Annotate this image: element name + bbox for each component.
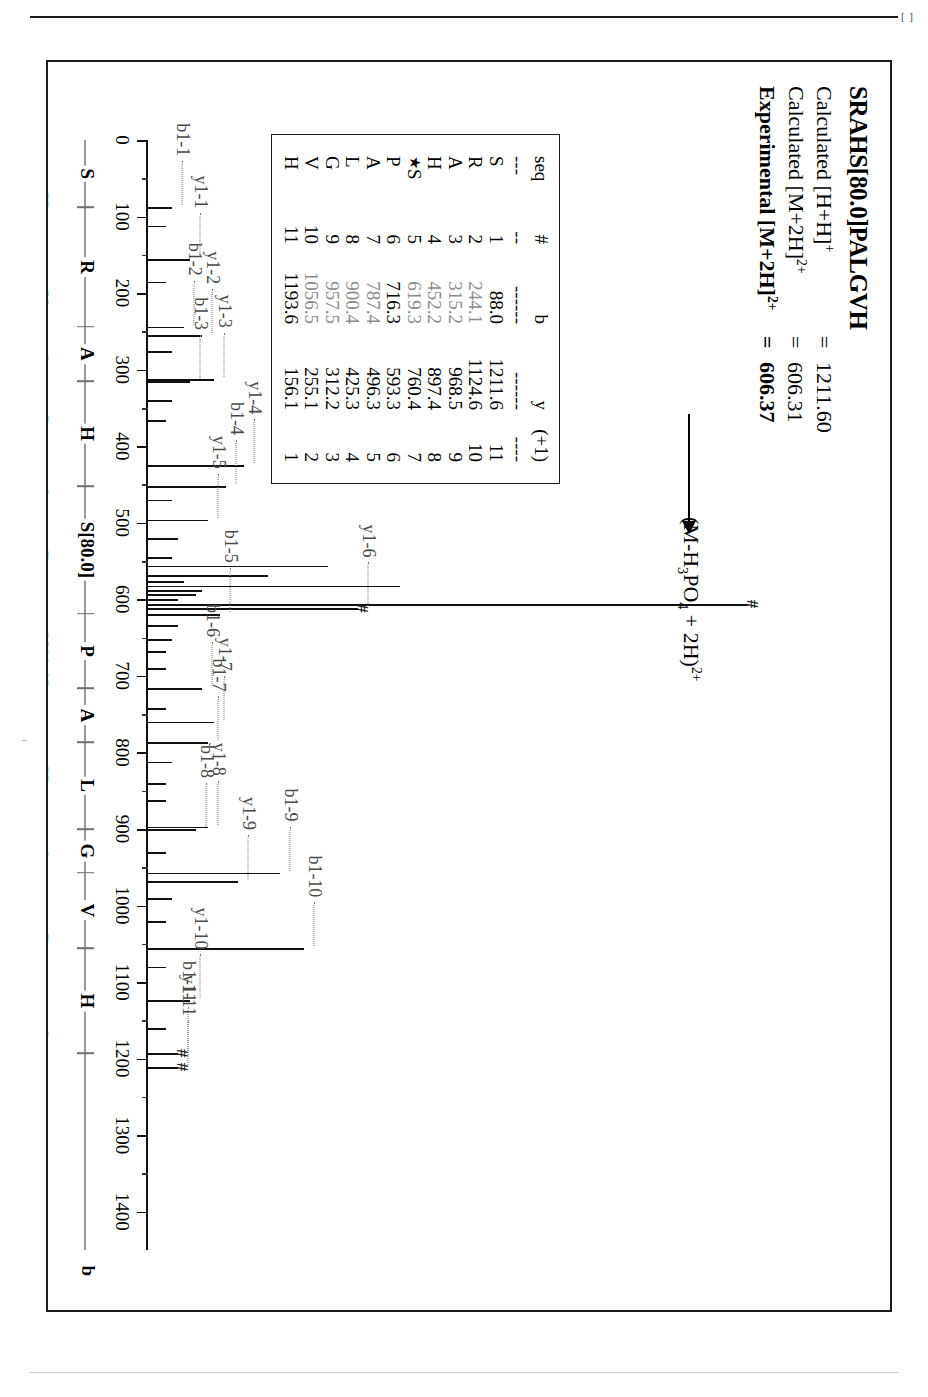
peak-label-leader xyxy=(236,440,237,484)
axis-tick xyxy=(137,140,148,142)
axis-tick-label: 0 xyxy=(111,135,133,145)
page-corner-mark: [ ] xyxy=(901,10,914,22)
peak-label-leader xyxy=(212,289,213,333)
peak-label-leader xyxy=(218,781,219,825)
peak-label-leader xyxy=(218,474,219,518)
ladder-residue: A xyxy=(74,344,99,364)
ladder-node xyxy=(46,1000,48,1002)
peak-label: b1-10 xyxy=(304,855,325,900)
peak-label-leader xyxy=(314,902,315,946)
spectrum-peak xyxy=(148,873,280,875)
axis-tick xyxy=(137,293,148,295)
axis-tick-minor xyxy=(142,714,148,716)
spectrum-peak xyxy=(148,400,172,402)
ladder-node xyxy=(77,828,94,830)
ladder-residue: S xyxy=(74,165,99,182)
peak-label: y1-11 xyxy=(178,975,199,1019)
peak-label: b1-5 xyxy=(220,530,241,566)
axis-tick xyxy=(137,599,148,601)
peak-label: y1-1 xyxy=(190,175,211,211)
peak-label: b1-1 xyxy=(172,123,193,159)
ladder-node xyxy=(46,1066,48,1068)
axis-tick xyxy=(137,829,148,831)
b-ladder-endcap: b xyxy=(77,1265,99,1276)
axis-tick xyxy=(137,217,148,219)
ladder-residue: A xyxy=(46,483,53,503)
spectrum-peak xyxy=(148,590,202,592)
ladder-node xyxy=(77,872,94,874)
spectrum-peak xyxy=(148,948,304,950)
axis-tick-label: 600 xyxy=(111,585,133,614)
ladder-residue: S xyxy=(46,1025,53,1042)
spectrum-peak xyxy=(148,783,166,785)
peak-label-leader xyxy=(182,161,183,205)
axis-tick xyxy=(137,446,148,448)
ladder-node xyxy=(46,593,48,595)
spectrum-peak xyxy=(148,852,166,854)
axis-tick xyxy=(137,982,148,984)
rotated-figure-canvas: SRAHS[80.0]PALGVH Calculated [H+H]+=1211… xyxy=(48,62,890,1310)
peak-label-leader xyxy=(200,335,201,379)
spectrum-peak xyxy=(148,639,172,641)
y-ion-sequence-ladder: y HVGLAPS[80.0]HARS xyxy=(46,140,54,1250)
spectrum-peak xyxy=(148,668,166,670)
spectrum-peak xyxy=(148,575,268,577)
peak-label-leader xyxy=(254,419,255,463)
axis-tick xyxy=(137,1059,148,1061)
peak-label-leader xyxy=(224,333,225,377)
mass-spectrum-plot: 0100200300400500600700800900100011001200… xyxy=(48,62,890,1310)
peak-label-leader xyxy=(188,1021,189,1065)
axis-tick-minor xyxy=(142,255,148,257)
ladder-node xyxy=(46,259,48,261)
spectrum-peak xyxy=(148,520,208,522)
ladder-residue: R xyxy=(74,257,99,277)
peak-hash-marker: # xyxy=(172,1063,192,1072)
spectrum-peak xyxy=(148,594,196,596)
peak-hash-marker: # xyxy=(742,600,762,609)
axis-tick-label: 400 xyxy=(111,432,133,461)
peak-label: b1-4 xyxy=(226,402,247,438)
ladder-node xyxy=(77,948,94,950)
spectrum-peak xyxy=(148,708,166,710)
ladder-node xyxy=(77,380,94,382)
spectrum-peak xyxy=(148,465,244,467)
axis-tick-label: 1000 xyxy=(111,887,133,925)
axis-tick xyxy=(137,1135,148,1137)
peak-label: b1-6 xyxy=(202,604,223,640)
b-ladder-rail xyxy=(84,140,86,1250)
ladder-residue: P xyxy=(46,548,53,566)
axis-tick-minor xyxy=(142,331,148,333)
page-rule-top xyxy=(30,16,898,18)
spectrum-peak xyxy=(148,335,202,337)
peak-label-leader xyxy=(218,696,219,740)
peak-label: b1-8 xyxy=(196,745,217,781)
ladder-node xyxy=(77,326,94,328)
axis-tick-minor xyxy=(142,1173,148,1175)
peak-label: y1-6 xyxy=(358,524,379,560)
spectrum-peak xyxy=(148,581,184,583)
spectrum-peak xyxy=(148,207,172,209)
b-ion-sequence-ladder: b SRAHS[80.0]PALGVH xyxy=(70,140,100,1250)
ladder-node xyxy=(77,742,94,744)
axis-tick-label: 1200 xyxy=(111,1040,133,1078)
axis-tick-label: 900 xyxy=(111,815,133,844)
ladder-node xyxy=(46,721,48,723)
spectrum-peak xyxy=(148,921,166,923)
spectrum-peak xyxy=(148,420,166,422)
axis-tick xyxy=(137,906,148,908)
axis-tick-minor xyxy=(142,561,148,563)
ladder-residue: G xyxy=(46,347,53,368)
spectrum-peak xyxy=(148,557,172,559)
ladder-residue: H xyxy=(74,423,99,444)
spectrum-peak xyxy=(148,586,400,588)
ladder-residue: V xyxy=(74,901,99,921)
axis-tick-label: 100 xyxy=(111,202,133,231)
peak-label-leader xyxy=(290,827,291,871)
ladder-node xyxy=(77,613,94,615)
page-margin-mark-left xyxy=(22,740,27,741)
spectrum-peak xyxy=(148,282,166,284)
axis-tick-label: 700 xyxy=(111,662,133,691)
peak-label-leader xyxy=(206,783,207,827)
ladder-residue: H xyxy=(46,189,53,210)
spectrum-peak xyxy=(148,500,172,502)
